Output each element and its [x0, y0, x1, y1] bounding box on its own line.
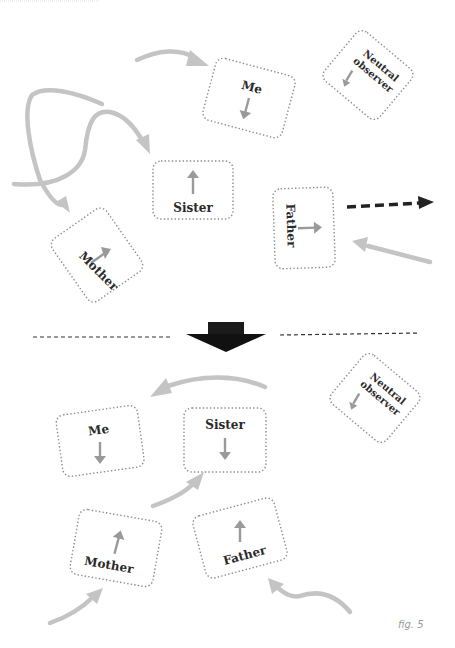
node-me-top: Me — [201, 56, 297, 139]
node-sister-bottom-label: Sister — [205, 418, 245, 432]
node-me-bottom-label: Me — [87, 422, 110, 439]
loop-into-mother-arrow — [27, 90, 102, 213]
figure-label: fig. 5 — [398, 619, 424, 630]
curve-into-me-arrow — [137, 50, 209, 66]
node-sister-top: Sister — [153, 161, 233, 219]
arc-toward-me-arrow — [150, 378, 265, 398]
node-mother-bottom: Mother — [69, 508, 163, 588]
transition-divider — [33, 322, 420, 352]
curve-into-father-arrow — [268, 578, 350, 612]
dashed-out-arrow — [347, 196, 434, 209]
curve-into-sister-arrow — [153, 472, 204, 506]
curve-into-mother-arrow — [50, 588, 103, 623]
node-neutral-observer-bottom: Neutral observer — [327, 350, 423, 445]
node-sister-bottom: Sister — [184, 408, 266, 472]
top-panel: Me Neutral observer Sister — [14, 27, 434, 307]
node-father-top: Father — [273, 187, 336, 269]
bottom-panel: Me Sister Neutral observer — [50, 350, 424, 630]
family-dynamics-diagram: Me Neutral observer Sister — [0, 0, 455, 648]
loop-into-sister-arrow — [14, 112, 150, 185]
node-sister-label: Sister — [173, 201, 213, 215]
node-father-bottom: Father — [191, 496, 289, 580]
straight-into-father-arrow — [352, 237, 430, 262]
node-neutral-observer-top: Neutral observer — [320, 27, 416, 122]
node-mother-top: Mother — [48, 205, 147, 307]
node-father-label: Father — [283, 203, 299, 248]
node-me-bottom: Me — [55, 405, 145, 478]
big-down-arrow-icon — [186, 322, 266, 352]
